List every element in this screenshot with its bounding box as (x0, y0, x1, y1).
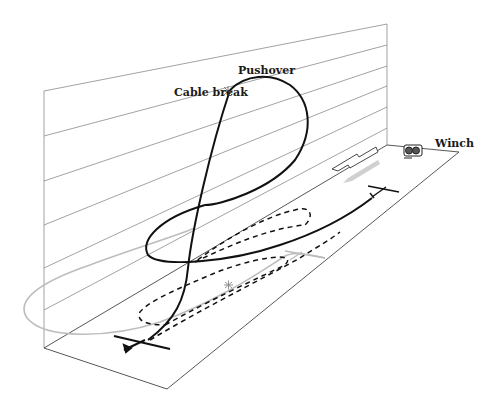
low-break-path (139, 257, 288, 325)
landing-glider-icon (114, 336, 170, 352)
wall-grid-line (44, 66, 387, 181)
glider-icon (368, 186, 399, 198)
low-break-path (150, 232, 340, 340)
circuit-path (24, 228, 325, 334)
high-break-path (146, 198, 372, 262)
launch-diagram: Pushover Cable break Winch (0, 0, 486, 412)
wall-grid-line (44, 107, 387, 268)
gray-glider-icon (285, 251, 325, 260)
cable-break-label: Cable break (174, 86, 248, 99)
winch-label: Winch (434, 137, 474, 150)
low-break-star-icon (224, 281, 233, 290)
ground-left-edge (44, 348, 167, 389)
ground-front-edge (167, 152, 459, 389)
high-break-path (148, 77, 308, 340)
winch-icon (404, 145, 422, 158)
pushover-label: Pushover (238, 64, 295, 77)
wall (44, 24, 387, 348)
ground (44, 145, 459, 389)
wall-top-edge (44, 24, 387, 91)
